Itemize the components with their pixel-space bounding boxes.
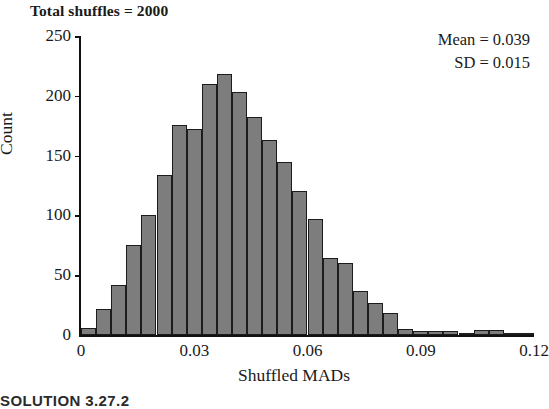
histogram-bar: [323, 258, 338, 335]
y-tick-label: 0: [25, 325, 71, 345]
histogram-bar: [383, 313, 398, 335]
histogram-bar: [96, 309, 111, 335]
y-tick-label: 50: [25, 265, 71, 285]
y-axis-title: Count: [0, 112, 17, 155]
x-tick-label: 0: [77, 341, 86, 361]
histogram-bar: [81, 328, 96, 335]
histogram-bar: [247, 117, 262, 335]
histogram-bar: [217, 74, 232, 335]
x-tick-label: 0.03: [179, 341, 209, 361]
x-axis-title: Shuffled MADs: [0, 365, 548, 386]
histogram-bar: [126, 245, 141, 335]
footer-caption: SOLUTION 3.27.2: [0, 392, 129, 409]
histogram-bar: [428, 331, 443, 335]
histogram-bar: [459, 333, 474, 335]
plot-area: [79, 36, 534, 337]
histogram-bar: [172, 125, 187, 336]
x-tick-label: 0.09: [406, 341, 436, 361]
histogram-bar: [187, 129, 202, 335]
histogram-bar: [232, 92, 247, 335]
histogram-bar: [338, 263, 353, 335]
histogram-bar: [157, 175, 172, 335]
histogram-bar: [202, 84, 217, 335]
histogram-bar: [368, 303, 383, 335]
histogram-bar: [474, 330, 489, 335]
histogram-bar: [398, 329, 413, 335]
histogram-bar: [443, 331, 458, 335]
x-axis-line: [79, 335, 534, 337]
histogram-bar: [262, 140, 277, 335]
histogram-bar: [292, 191, 307, 335]
histogram-bar: [489, 330, 504, 335]
histogram-bar: [277, 162, 292, 335]
y-tick-label: 200: [25, 86, 71, 106]
histogram-bar: [353, 291, 368, 335]
x-tick-label: 0.12: [519, 341, 549, 361]
histogram-bar: [519, 333, 534, 335]
page-title: Total shuffles = 2000: [30, 2, 168, 20]
histogram-bar: [413, 331, 428, 335]
histogram-bar: [141, 215, 156, 335]
histogram-bar: [504, 333, 519, 335]
histogram-bar: [308, 219, 323, 335]
histogram-bar: [111, 285, 126, 335]
y-tick-label: 250: [25, 26, 71, 46]
y-tick-label: 150: [25, 146, 71, 166]
y-tick-label: 100: [25, 205, 71, 225]
x-tick-label: 0.06: [293, 341, 323, 361]
bars-layer: [81, 36, 534, 335]
